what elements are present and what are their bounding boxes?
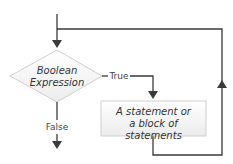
process-label-line1: A statement or — [101, 106, 206, 118]
decision-label-line2: Expression — [17, 77, 97, 89]
decision-label: Boolean Expression — [17, 65, 97, 89]
true-label: True — [106, 70, 132, 82]
false-label: False — [40, 121, 74, 133]
decision-label-line1: Boolean — [17, 65, 97, 77]
process-label-line2: a block of statements — [101, 118, 206, 142]
process-label: A statement or a block of statements — [101, 106, 206, 142]
entry-arrow — [52, 14, 62, 48]
